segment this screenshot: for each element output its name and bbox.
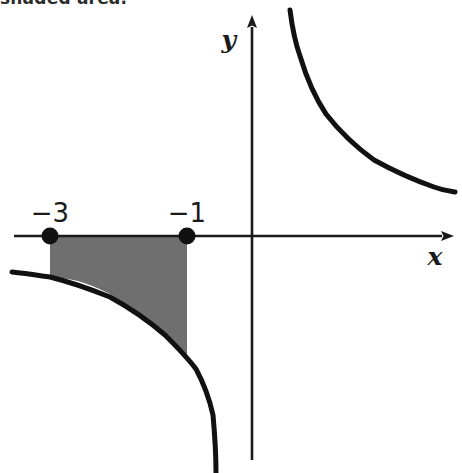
tick-dot-minus-1 — [179, 228, 196, 245]
curve-upper-right-branch — [290, 10, 455, 192]
plot-canvas: −3 −1 y x — [0, 0, 462, 473]
tick-dot-minus-3 — [42, 228, 59, 245]
hyperbola-shaded-area-figure: shaded area. −3 −1 y x — [0, 0, 462, 473]
x-axis-label: x — [427, 242, 444, 271]
tick-label-minus-1: −1 — [168, 198, 206, 228]
y-axis-label: y — [220, 25, 237, 54]
tick-label-minus-3: −3 — [31, 198, 69, 228]
